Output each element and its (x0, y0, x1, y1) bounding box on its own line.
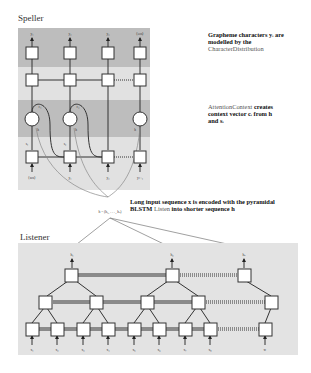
listener-panel (18, 243, 298, 355)
blstm-node (26, 323, 39, 336)
output-label: y₁ (31, 32, 34, 36)
input-label: ⟨sos⟩ (28, 175, 36, 180)
input-node (102, 151, 114, 163)
pblstm-node (238, 269, 251, 282)
blstm-node (153, 323, 166, 336)
input-node (26, 151, 38, 163)
pblstm-node (141, 296, 154, 309)
lstm-node (26, 74, 38, 86)
grapheme-annotation: Grapheme characters yᵢ are modelled by t… (208, 31, 308, 52)
listener-output-label: h₁ (70, 253, 73, 257)
las-diagram: y₁ y₂ y₃ ⟨eos⟩ ⟨sos⟩ y₁ y₂ yₗ₋₁ s₁ s₂ c₁… (0, 0, 311, 373)
input-label: yₗ₋₁ (137, 176, 143, 180)
attention-annotation: AttentionContext creates context vector … (208, 103, 308, 124)
pblstm-node (265, 296, 278, 309)
output-label: ⟨eos⟩ (136, 31, 145, 36)
input-label: y₁ (69, 176, 72, 180)
blstm-node (179, 323, 192, 336)
lstm-node (64, 74, 76, 86)
context-label: c₁ (39, 105, 42, 109)
h-label: h (37, 128, 39, 132)
output-node (102, 47, 114, 59)
blstm-node (77, 323, 90, 336)
pblstm-node (39, 296, 52, 309)
attention-node (133, 112, 147, 126)
blstm-node (102, 323, 115, 336)
encoder-annotation: Long input sequence x is encoded with th… (130, 198, 310, 212)
pblstm-node (192, 296, 205, 309)
input-node (134, 151, 146, 163)
h-definition: h = (h₁, . . . , hᵤ) (98, 210, 122, 215)
lstm-node (102, 74, 114, 86)
attention-node (25, 112, 39, 126)
input-node (64, 151, 76, 163)
output-node (134, 47, 146, 59)
output-node (64, 47, 76, 59)
blstm-node (259, 323, 272, 336)
pblstm-node (90, 296, 103, 309)
pblstm-node (166, 269, 179, 282)
blstm-node (128, 323, 141, 336)
output-node (26, 47, 38, 59)
blstm-node (204, 323, 217, 336)
state-label: s₁ (26, 142, 29, 146)
listener-input-label: x₁ (30, 348, 33, 352)
listener-input-label: xₜ (264, 348, 267, 352)
attention-node (63, 112, 77, 126)
h-label: h (75, 128, 77, 132)
lstm-node (134, 74, 146, 86)
pblstm-node (65, 269, 78, 282)
h-label: h (134, 128, 136, 132)
blstm-node (51, 323, 64, 336)
